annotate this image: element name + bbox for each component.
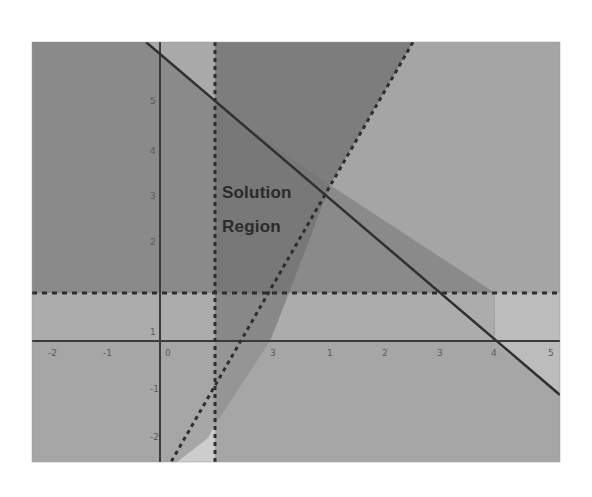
- svg-text:4: 4: [150, 146, 156, 156]
- solution-label-line2: Region: [222, 217, 281, 237]
- svg-text:-2: -2: [150, 432, 159, 442]
- inequality-graph: -2 -1 0 1 2 3 4 5 3 5 4 3 2 1 -1 -2: [0, 0, 592, 497]
- svg-text:-1: -1: [103, 348, 112, 358]
- svg-text:4: 4: [491, 348, 497, 358]
- svg-text:2: 2: [150, 237, 156, 247]
- svg-text:1: 1: [150, 327, 156, 337]
- svg-text:-2: -2: [48, 348, 57, 358]
- svg-text:5: 5: [150, 96, 156, 106]
- svg-text:3: 3: [270, 348, 276, 358]
- svg-text:2: 2: [382, 348, 388, 358]
- svg-text:5: 5: [548, 348, 554, 358]
- svg-text:-1: -1: [150, 384, 159, 394]
- svg-text:3: 3: [150, 191, 156, 201]
- solution-label-line1: Solution: [222, 183, 292, 203]
- region-below-x-axis: [32, 341, 560, 462]
- shaded-regions: [32, 42, 560, 462]
- svg-text:1: 1: [327, 348, 333, 358]
- svg-text:3: 3: [437, 348, 443, 358]
- svg-text:0: 0: [165, 348, 171, 358]
